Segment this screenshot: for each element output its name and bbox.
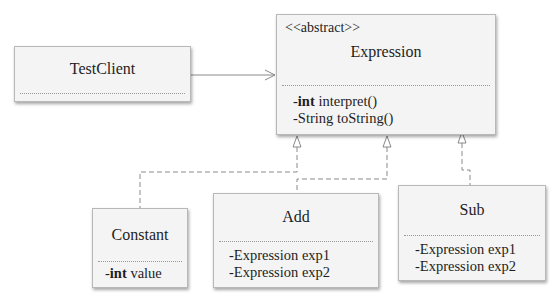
divider xyxy=(282,85,490,86)
class-testclient[interactable]: TestClient xyxy=(14,46,191,102)
class-add[interactable]: Add -Expression exp1 -Expression exp2 xyxy=(213,193,379,288)
class-name: TestClient xyxy=(15,60,190,78)
divider xyxy=(98,261,182,262)
class-name: Expression xyxy=(277,43,495,61)
member-list: -int interpret() -String toString() xyxy=(293,93,393,127)
class-name: Sub xyxy=(399,201,545,219)
class-sub[interactable]: Sub -Expression exp1 -Expression exp2 xyxy=(398,185,546,281)
member-tostring: -String toString() xyxy=(293,110,393,127)
realization-sub xyxy=(458,132,470,185)
member-exp2: -Expression exp2 xyxy=(415,258,516,275)
association-arrow xyxy=(190,70,275,80)
class-name: Add xyxy=(214,208,378,226)
realization-add xyxy=(297,136,391,193)
member-list: -Expression exp1 -Expression exp2 xyxy=(415,241,516,275)
stereotype: <<abstract>> xyxy=(285,20,360,36)
member-exp1: -Expression exp1 xyxy=(415,241,516,258)
member-exp2: -Expression exp2 xyxy=(229,264,330,281)
member-list: -Expression exp1 -Expression exp2 xyxy=(229,247,330,281)
member-list: -int value xyxy=(105,265,162,282)
class-constant[interactable]: Constant -int value xyxy=(92,208,188,288)
class-name: Constant xyxy=(93,226,187,244)
class-expression[interactable]: <<abstract>> Expression -int interpret()… xyxy=(276,14,496,135)
member-exp1: -Expression exp1 xyxy=(229,247,330,264)
divider xyxy=(20,93,185,94)
member-interpret: -int interpret() xyxy=(293,93,393,110)
divider xyxy=(404,235,540,236)
member-value: -int value xyxy=(105,265,162,282)
divider xyxy=(219,241,373,242)
